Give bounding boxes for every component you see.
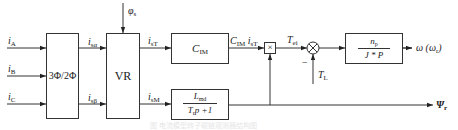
- figure-caption: 图 电流模型转子磁链观测器结构图: [150, 120, 257, 130]
- cim-block-label: CIM: [171, 42, 229, 56]
- diagram-lines: [0, 0, 458, 130]
- signal-label-phis: φs: [128, 6, 136, 19]
- signal-label-isb: isβ: [88, 93, 97, 106]
- signal-label-isa: isα: [88, 37, 97, 50]
- mechanical-transfer-function: np J * P: [358, 36, 390, 60]
- output-label-psi: Ψr: [436, 100, 447, 113]
- input-label-ib: iB: [8, 64, 15, 77]
- signal-label-tei: Tei: [287, 35, 298, 48]
- input-label-ic: iC: [8, 92, 15, 105]
- multiplier-icon: ×: [264, 42, 276, 53]
- output-label-omega: ω (ωr): [416, 43, 442, 56]
- signal-label-ism: isM: [148, 92, 160, 105]
- signal-label-ist: isT: [148, 36, 158, 49]
- input-label-ia: iA: [8, 36, 16, 49]
- flux-transfer-function: Lmd Trp +1: [183, 91, 217, 116]
- signal-label-cim-ist: CIM isT: [230, 36, 258, 49]
- vr-block-label: VR: [106, 69, 140, 84]
- summer-minus-sign: −: [302, 58, 308, 68]
- transform-block-label: 3Φ/2Φ: [46, 70, 79, 81]
- signal-label-tl: TL: [318, 70, 328, 83]
